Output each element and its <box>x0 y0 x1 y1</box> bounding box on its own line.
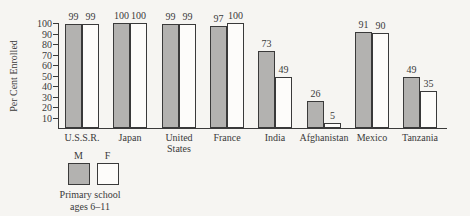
bar-m-2 <box>162 24 179 128</box>
y-tick-70 <box>53 55 58 56</box>
y-tick-label-20: 20 <box>24 103 52 113</box>
y-tick-label-10: 10 <box>24 114 52 124</box>
y-tick-40 <box>53 86 58 87</box>
y-tick-80 <box>53 44 58 45</box>
bar-value-f-0: 99 <box>76 12 106 22</box>
bar-m-4 <box>258 51 275 128</box>
bar-f-4 <box>275 77 292 128</box>
bar-value-f-1: 100 <box>124 11 154 21</box>
bar-f-2 <box>179 24 196 128</box>
bar-f-7 <box>420 91 437 128</box>
y-tick-90 <box>53 34 58 35</box>
y-tick-label-80: 80 <box>24 40 52 50</box>
y-tick-50 <box>53 76 58 77</box>
y-tick-label-100: 100 <box>24 19 52 29</box>
y-tick-20 <box>53 107 58 108</box>
enrollment-bar-chart: Per Cent Enrolled 102030405060708090100 … <box>0 0 470 216</box>
y-tick-label-60: 60 <box>24 61 52 71</box>
y-axis-title: Per Cent Enrolled <box>8 26 20 126</box>
y-axis-line <box>58 23 59 129</box>
bar-value-m-5: 26 <box>301 89 331 99</box>
legend-label-f: F <box>97 151 118 161</box>
bar-m-3 <box>210 26 227 128</box>
bar-value-f-3: 100 <box>221 11 251 21</box>
y-tick-label-70: 70 <box>24 51 52 61</box>
y-tick-100 <box>53 23 58 24</box>
bar-f-5 <box>324 123 341 128</box>
x-label-7: Tanzania <box>380 132 460 143</box>
y-tick-60 <box>53 65 58 66</box>
legend-caption-line1: Primary school <box>48 189 132 200</box>
bar-value-f-6: 90 <box>366 21 396 31</box>
bar-value-f-2: 99 <box>173 12 203 22</box>
y-tick-10 <box>53 118 58 119</box>
legend-swatch-m <box>68 163 90 185</box>
y-tick-30 <box>53 97 58 98</box>
legend-label-m: M <box>68 151 89 161</box>
bar-f-1 <box>130 23 147 128</box>
legend-swatch-f <box>97 163 119 185</box>
x-axis-line <box>58 128 447 129</box>
y-tick-label-30: 30 <box>24 93 52 103</box>
bar-value-m-7: 49 <box>397 65 427 75</box>
y-tick-label-50: 50 <box>24 72 52 82</box>
bar-value-f-4: 49 <box>269 65 299 75</box>
legend-caption-line2: ages 6–11 <box>48 201 132 212</box>
bar-m-1 <box>113 23 130 128</box>
bar-value-f-5: 5 <box>318 111 348 121</box>
bar-value-f-7: 35 <box>414 79 444 89</box>
y-tick-label-40: 40 <box>24 82 52 92</box>
bar-f-0 <box>82 24 99 128</box>
bar-value-m-4: 73 <box>252 39 282 49</box>
bar-f-3 <box>227 23 244 128</box>
bar-m-6 <box>355 32 372 128</box>
bar-f-6 <box>372 33 389 128</box>
y-tick-label-90: 90 <box>24 30 52 40</box>
bar-m-0 <box>65 24 82 128</box>
